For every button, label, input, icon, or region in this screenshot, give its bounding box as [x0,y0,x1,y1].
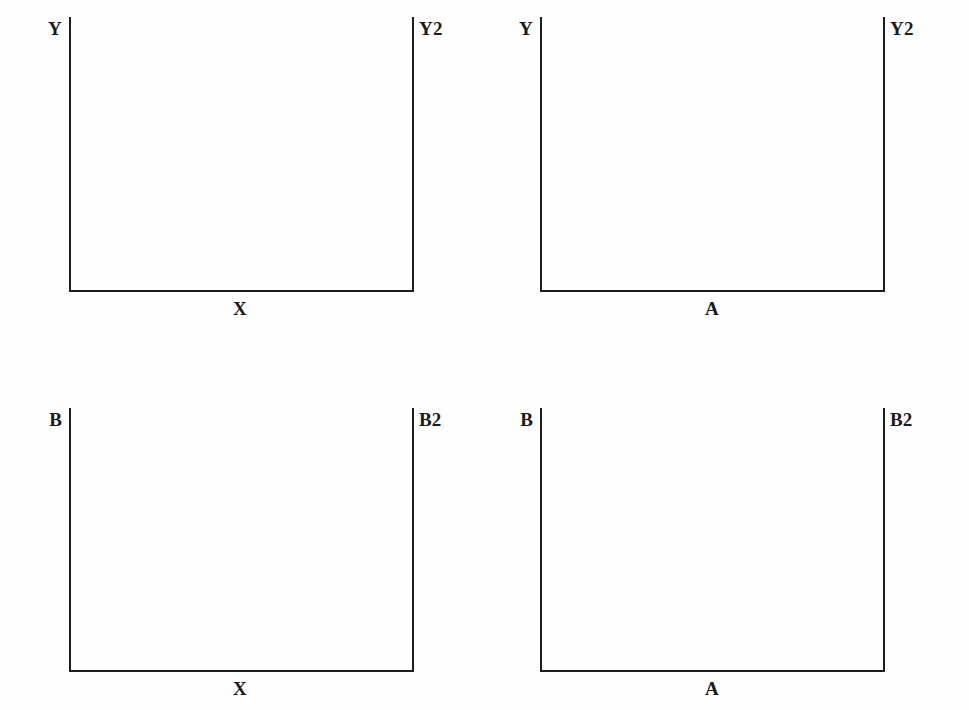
panel-bottom-left: B B2 X [0,380,485,710]
axis-frame-top-right [540,17,885,292]
right-axis-label-top-left: Y2 [419,19,479,38]
bottom-axis-label-bottom-right: A [672,679,752,698]
axis-frame-bottom-left [69,408,414,672]
left-axis-label-top-right: Y [497,19,533,38]
bottom-axis-label-top-right: A [672,299,752,318]
panel-top-left: Y Y2 X [0,0,485,355]
right-axis-label-bottom-right: B2 [890,410,950,429]
panel-bottom-right: B B2 A [485,380,969,710]
bottom-axis-label-bottom-left: X [200,679,280,698]
left-axis-label-top-left: Y [26,19,62,38]
bottom-axis-label-top-left: X [200,299,280,318]
right-axis-label-top-right: Y2 [890,19,950,38]
left-axis-label-bottom-right: B [497,410,533,429]
panel-top-right: Y Y2 A [485,0,969,355]
axis-frame-top-left [69,17,414,292]
axis-frame-bottom-right [540,408,885,672]
left-axis-label-bottom-left: B [26,410,62,429]
right-axis-label-bottom-left: B2 [419,410,479,429]
